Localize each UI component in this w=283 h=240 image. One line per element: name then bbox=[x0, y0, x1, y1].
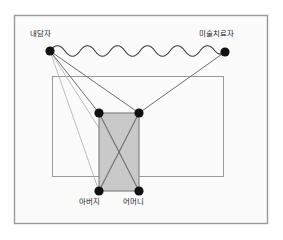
node-therapist[interactable] bbox=[220, 47, 229, 56]
node-label-father: 아버지 bbox=[79, 198, 100, 205]
node-label-mother: 어머니 bbox=[123, 198, 144, 205]
node-father[interactable] bbox=[94, 186, 103, 195]
node-inner-right[interactable] bbox=[134, 108, 143, 117]
figure-container: 내담자 미술치료자 아버지 어머니 bbox=[0, 0, 283, 240]
node-label-therapist: 미술치료자 bbox=[199, 30, 235, 37]
node-client[interactable] bbox=[45, 46, 54, 55]
node-inner-left[interactable] bbox=[94, 108, 103, 117]
node-mother[interactable] bbox=[134, 186, 143, 195]
node-label-client: 내담자 bbox=[30, 30, 51, 37]
